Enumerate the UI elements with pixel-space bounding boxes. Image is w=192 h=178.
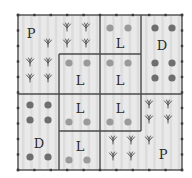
region-label-p-bottom-right: P bbox=[159, 148, 168, 161]
light-dot-marker bbox=[106, 118, 113, 125]
tick-mark bbox=[164, 169, 166, 171]
light-dot-marker bbox=[65, 59, 72, 66]
region-label-l-top-left: L bbox=[76, 74, 85, 87]
light-dot-marker bbox=[65, 156, 72, 163]
tick-mark bbox=[17, 29, 19, 31]
light-dot-marker bbox=[83, 59, 90, 66]
crop-row-stripe bbox=[112, 15, 115, 170]
tick-mark bbox=[181, 29, 183, 31]
region-label-l-bottom-mid: L bbox=[116, 102, 125, 115]
crop-row-stripe bbox=[137, 15, 140, 170]
crop-row-stripe bbox=[22, 15, 25, 170]
light-dot-marker bbox=[124, 24, 131, 31]
dark-dot-marker bbox=[168, 59, 175, 66]
crop-row-stripe bbox=[63, 15, 66, 170]
crop-row-stripe bbox=[47, 15, 50, 170]
tick-mark bbox=[132, 169, 134, 171]
tick-mark bbox=[17, 45, 19, 47]
crop-row-stripe bbox=[153, 15, 156, 170]
dark-dot-marker bbox=[151, 59, 158, 66]
tick-mark bbox=[181, 169, 183, 171]
light-dot-marker bbox=[106, 59, 113, 66]
tick-mark bbox=[17, 91, 19, 93]
tick-mark bbox=[115, 14, 117, 16]
tick-mark bbox=[66, 14, 68, 16]
dark-dot-marker bbox=[44, 101, 51, 108]
dark-dot-marker bbox=[44, 153, 51, 160]
tick-mark bbox=[132, 14, 134, 16]
crop-row-stripe bbox=[88, 15, 91, 170]
tick-mark bbox=[17, 107, 19, 109]
tick-mark bbox=[17, 14, 19, 16]
dark-dot-marker bbox=[26, 116, 33, 123]
tick-mark bbox=[148, 14, 150, 16]
tick-mark bbox=[181, 45, 183, 47]
dark-dot-marker bbox=[151, 24, 158, 31]
crop-row-stripe bbox=[170, 15, 173, 170]
tick-mark bbox=[17, 169, 19, 171]
tick-mark bbox=[33, 169, 35, 171]
tick-mark bbox=[181, 60, 183, 62]
region-label-l-bottom-left-upper: L bbox=[76, 102, 85, 115]
dark-dot-marker bbox=[26, 101, 33, 108]
tick-mark bbox=[82, 14, 84, 16]
dark-dot-marker bbox=[168, 24, 175, 31]
light-dot-marker bbox=[65, 118, 72, 125]
region-label-d-top-right: D bbox=[157, 39, 167, 52]
tick-mark bbox=[17, 60, 19, 62]
tick-mark bbox=[115, 169, 117, 171]
tick-mark bbox=[17, 122, 19, 124]
tick-mark bbox=[148, 169, 150, 171]
tick-mark bbox=[82, 169, 84, 171]
region-label-l-bottom-left-lower: L bbox=[76, 140, 85, 153]
tick-mark bbox=[99, 14, 101, 16]
tick-mark bbox=[181, 153, 183, 155]
region-label-d-bottom-left: D bbox=[34, 137, 44, 150]
tick-mark bbox=[33, 14, 35, 16]
crop-row-stripe bbox=[104, 15, 107, 170]
dark-dot-marker bbox=[44, 116, 51, 123]
dark-dot-marker bbox=[151, 74, 158, 81]
light-dot-marker bbox=[83, 156, 90, 163]
tick-mark bbox=[17, 138, 19, 140]
region-label-l-top-mid-lower: L bbox=[116, 74, 125, 87]
light-dot-marker bbox=[124, 59, 131, 66]
tick-mark bbox=[50, 169, 52, 171]
dark-dot-marker bbox=[168, 74, 175, 81]
light-dot-marker bbox=[124, 118, 131, 125]
tick-mark bbox=[17, 76, 19, 78]
tick-mark bbox=[181, 138, 183, 140]
light-dot-marker bbox=[106, 24, 113, 31]
region-label-l-top-mid-upper: L bbox=[116, 37, 125, 50]
crop-row-stripe bbox=[145, 15, 148, 170]
tick-mark bbox=[50, 14, 52, 16]
tick-mark bbox=[66, 169, 68, 171]
tick-mark bbox=[99, 169, 101, 171]
region-label-p-top-left: P bbox=[27, 27, 36, 40]
tick-mark bbox=[181, 76, 183, 78]
tick-mark bbox=[181, 14, 183, 16]
crop-row-stripe bbox=[96, 15, 99, 170]
crop-row-stripe bbox=[71, 15, 74, 170]
tick-mark bbox=[181, 91, 183, 93]
crop-row-stripe bbox=[129, 15, 132, 170]
tick-mark bbox=[181, 107, 183, 109]
crop-row-stripe bbox=[178, 15, 181, 170]
crop-row-stripe bbox=[55, 15, 58, 170]
light-dot-marker bbox=[83, 118, 90, 125]
dark-dot-marker bbox=[26, 153, 33, 160]
tick-mark bbox=[181, 122, 183, 124]
tick-mark bbox=[164, 14, 166, 16]
tick-mark bbox=[17, 153, 19, 155]
